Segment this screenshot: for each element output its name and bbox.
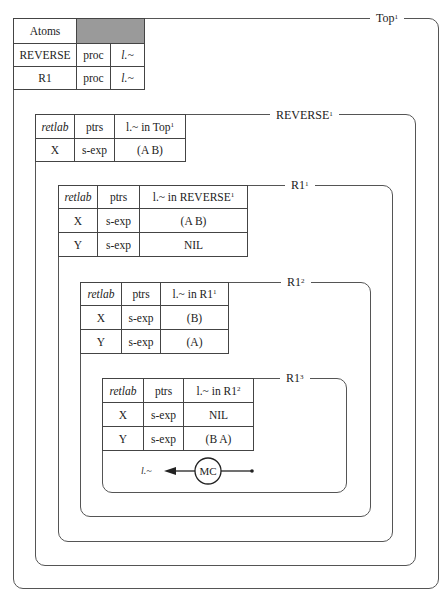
- endpoint-dot: [250, 469, 254, 473]
- arrowhead-left-icon: [164, 467, 176, 475]
- mc-diagram: [0, 0, 446, 597]
- mc-arrow-label: l.~: [141, 464, 152, 478]
- mc-label: MC: [195, 463, 221, 479]
